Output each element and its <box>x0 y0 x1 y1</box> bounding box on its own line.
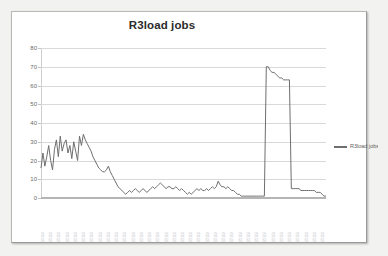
x-axis-tick-label: 18:09 <box>263 199 268 243</box>
x-axis-tick-label: 18:09 <box>222 199 227 243</box>
y-axis-tick-label: 0 <box>13 195 37 201</box>
y-axis-tick-label: 20 <box>13 158 37 164</box>
x-axis-tick-label: 18:09 <box>214 199 219 243</box>
y-axis-tick-label: 70 <box>13 64 37 70</box>
plot-area: 01020304050607080 <box>41 48 326 198</box>
chart-card: R3load jobs 01020304050607080 18:0918:09… <box>11 11 367 243</box>
x-axis-tick-label: 18:09 <box>99 199 104 243</box>
x-axis-tick-label: 18:09 <box>123 199 128 243</box>
legend-label: R3load jobs <box>350 144 378 150</box>
x-axis-tick-label: 18:09 <box>57 199 62 243</box>
y-axis-tick-label: 50 <box>13 101 37 107</box>
x-axis-tick-label: 18:09 <box>66 199 71 243</box>
x-axis-tick-label: 18:09 <box>115 199 120 243</box>
x-axis-tick-label: 18:09 <box>148 199 153 243</box>
x-axis-tick-label: 18:09 <box>189 199 194 243</box>
x-axis-tick-label: 18:09 <box>197 199 202 243</box>
x-axis-tick-label: 18:09 <box>239 199 244 243</box>
x-axis-tick-label: 18:09 <box>230 199 235 243</box>
y-axis-tick-label: 30 <box>13 139 37 145</box>
x-axis-tick-label: 18:09 <box>255 199 260 243</box>
x-axis-tick-label: 18:09 <box>288 199 293 243</box>
screenshot-root: R3load jobs 01020304050607080 18:0918:09… <box>0 0 388 256</box>
y-axis-tick-label: 40 <box>13 120 37 126</box>
x-axis-tick-label: 18:09 <box>313 199 318 243</box>
x-axis-tick-label: 18:09 <box>305 199 310 243</box>
x-axis-tick-label: 18:09 <box>296 199 301 243</box>
y-axis-tick-label: 10 <box>13 176 37 182</box>
x-axis-labels: 18:0918:0918:0918:0918:0918:0918:0918:09… <box>41 199 326 244</box>
chart-title: R3load jobs <box>12 19 312 31</box>
x-axis-tick-label: 18:09 <box>90 199 95 243</box>
x-axis-tick-label: 18:09 <box>140 199 145 243</box>
x-axis-tick-label: 18:09 <box>82 199 87 243</box>
x-axis-tick-label: 18:09 <box>74 199 79 243</box>
x-axis-tick-label: 18:09 <box>132 199 137 243</box>
series-line-r3load-jobs <box>41 48 326 198</box>
x-axis-tick-label: 18:09 <box>321 199 326 243</box>
x-axis-tick-label: 18:09 <box>165 199 170 243</box>
x-axis-tick-label: 18:09 <box>280 199 285 243</box>
x-axis-tick-label: 18:09 <box>247 199 252 243</box>
legend-line-swatch <box>334 146 347 148</box>
x-axis-tick-label: 18:09 <box>49 199 54 243</box>
x-axis-tick-label: 18:09 <box>272 199 277 243</box>
y-axis-tick-label: 80 <box>13 45 37 51</box>
x-axis-tick-label: 18:09 <box>206 199 211 243</box>
x-axis-tick-label: 18:09 <box>41 199 46 243</box>
chart-legend: R3load jobs <box>334 144 378 150</box>
x-axis-tick-label: 18:09 <box>107 199 112 243</box>
y-axis-tick-label: 60 <box>13 83 37 89</box>
x-axis-tick-label: 18:09 <box>173 199 178 243</box>
x-axis-tick-label: 18:09 <box>156 199 161 243</box>
x-axis-tick-label: 18:09 <box>181 199 186 243</box>
